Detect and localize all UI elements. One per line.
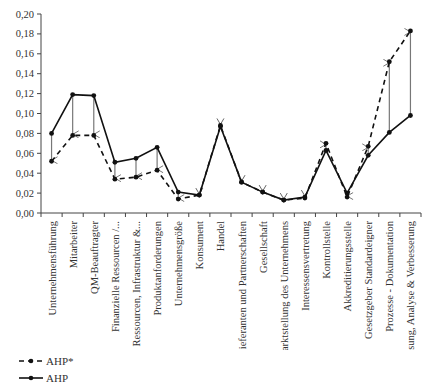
x-category-label: Mitarbeiter (68, 221, 79, 269)
data-point (176, 190, 181, 195)
data-point (366, 144, 371, 149)
x-category-label: Produktanforderungen (152, 220, 163, 315)
legend-label: AHP (46, 372, 68, 384)
data-point (112, 177, 117, 182)
y-tick-label: 0,06 (16, 148, 34, 159)
series-layer (49, 29, 413, 203)
x-category-label: Konsument (194, 221, 205, 269)
data-point (70, 133, 75, 138)
data-point (70, 92, 75, 97)
y-tick-label: 0,14 (16, 68, 35, 79)
data-point (387, 130, 392, 135)
data-point (91, 133, 96, 138)
data-point (91, 93, 96, 98)
category-labels: UnternehmensführungMitarbeiterQM-Beauftr… (47, 220, 417, 350)
x-category-label: Unternehmensgröße (173, 221, 184, 306)
series-ahp (49, 92, 413, 202)
x-category-label: Lieferanten und Partnerschaften (237, 220, 248, 350)
dashed-line-marker-icon (18, 356, 44, 366)
data-point (260, 190, 265, 195)
data-point (324, 141, 329, 146)
y-tick-label: 0,00 (16, 208, 34, 219)
x-category-label: Gesetzgeber Standardeigner (363, 221, 374, 340)
data-point (112, 160, 117, 165)
y-tick-label: 0,02 (16, 188, 34, 199)
data-point (408, 113, 413, 118)
data-point (155, 145, 160, 150)
data-point (387, 59, 392, 64)
y-tick-label: 0,12 (16, 88, 34, 99)
x-category-label: Unternehmensführung (47, 220, 58, 315)
data-point (49, 159, 54, 164)
x-category-label: Kontrollstelle (321, 221, 332, 279)
y-tick-label: 0,04 (16, 168, 35, 179)
data-point (134, 156, 139, 161)
data-point (302, 195, 307, 200)
y-tick-label: 0,16 (16, 48, 34, 59)
x-category-label: Interessensvertretung (300, 220, 311, 311)
x-category-label: Handel (215, 221, 226, 251)
data-point (197, 193, 202, 198)
y-tick-label: 0,20 (16, 9, 34, 20)
x-axis (41, 213, 421, 217)
x-category-label: Marktstellung des Unternehmens (279, 221, 290, 350)
data-point (134, 175, 139, 180)
x-category-label: Ressourcen, Infrastruktur &... (131, 221, 142, 346)
y-tick-label: 0,18 (16, 28, 34, 39)
change-arrows (52, 32, 411, 199)
legend-label: AHP* (46, 355, 74, 367)
data-point (281, 198, 286, 203)
line-chart: 0,000,020,040,060,080,100,120,140,160,18… (0, 0, 429, 350)
data-point (408, 29, 413, 34)
legend: AHP* AHP (18, 352, 74, 386)
y-tick-label: 0,10 (16, 108, 34, 119)
y-axis: 0,000,020,040,060,080,100,120,140,160,18… (16, 9, 41, 219)
data-point (155, 168, 160, 173)
x-category-label: Akkreditierungsstelle (342, 221, 353, 312)
data-point (324, 148, 329, 153)
x-category-label: Finanzielle Ressourcen /... (110, 221, 121, 332)
data-point (49, 131, 54, 136)
data-point (239, 180, 244, 185)
x-category-label: Prozesse - Dokumentation (384, 220, 395, 332)
y-tick-label: 0,08 (16, 128, 34, 139)
legend-item-ahp-star: AHP* (18, 352, 74, 369)
data-point (176, 197, 181, 202)
x-category-label: Messung, Analyse & Verbesserung (405, 220, 416, 350)
x-category-label: Gesellschaft (258, 221, 269, 273)
x-category-label: QM-Beauftragter (89, 221, 100, 294)
solid-line-marker-icon (18, 373, 44, 383)
data-point (345, 191, 350, 196)
data-point (218, 124, 223, 129)
series-ahp-star (49, 29, 413, 203)
data-point (366, 153, 371, 158)
legend-item-ahp: AHP (18, 369, 74, 386)
